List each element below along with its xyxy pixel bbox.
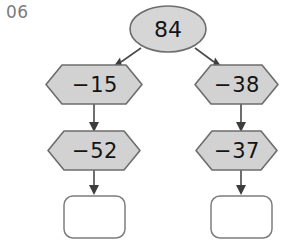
node-left-step-2-value: −52 (72, 139, 118, 163)
node-left-step-1-value: −15 (72, 73, 118, 97)
node-start-value: 84 (154, 17, 182, 42)
connector-right-step-2-to-right-result (236, 170, 246, 195)
node-right-step-1-value: −38 (214, 73, 260, 97)
connector-left-step-1-to-left-step-2 (89, 104, 99, 132)
node-right-step-2[interactable]: −37 (196, 131, 277, 170)
connector-left-step-2-to-left-result (89, 170, 99, 195)
node-right-step-1[interactable]: −38 (195, 65, 278, 104)
node-left-step-1[interactable]: −15 (46, 65, 142, 104)
node-start[interactable]: 84 (130, 6, 206, 52)
node-left-step-2[interactable]: −52 (48, 131, 140, 170)
exercise-number-label: 06 (6, 4, 29, 21)
connector-right-step-1-to-right-step-2 (236, 104, 246, 132)
node-left-result[interactable] (64, 196, 125, 238)
diagram-canvas: 06 (0, 0, 284, 240)
node-right-result[interactable] (211, 196, 272, 238)
flow-diagram: 84 −15 −52 −38 −37 (0, 0, 284, 240)
node-right-step-2-value: −37 (214, 139, 260, 163)
